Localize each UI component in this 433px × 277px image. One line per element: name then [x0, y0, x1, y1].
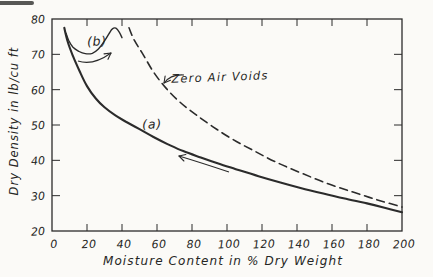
y-tick-label: 70 — [31, 48, 46, 62]
y-tick-label: 20 — [31, 225, 46, 239]
x-tick-label: 40 — [116, 238, 132, 252]
chart-plot-area: 0204060801001201401601802002030405060708… — [0, 0, 433, 277]
x-tick-label: 80 — [186, 238, 202, 252]
direction-arrow-b — [78, 53, 111, 62]
x-tick-label: 120 — [252, 237, 275, 251]
curve-b-label: (b) — [87, 33, 108, 49]
x-tick-label: 140 — [287, 237, 310, 251]
x-tick-label: 180 — [357, 237, 380, 251]
y-tick-label: 50 — [31, 119, 46, 133]
y-axis-title: Dry Density in lb/cu ft — [7, 47, 21, 196]
x-tick-label: 160 — [322, 237, 345, 251]
compaction-curves-figure: 0204060801001201401601802002030405060708… — [0, 0, 433, 277]
x-tick-label: 100 — [217, 237, 240, 251]
series-zero-air-voids — [129, 28, 402, 207]
y-tick-label: 80 — [31, 13, 46, 27]
x-axis-title: Moisture Content in % Dry Weight — [103, 254, 343, 268]
direction-arrow-a-head — [179, 155, 186, 156]
x-tick-label: 0 — [50, 238, 58, 251]
y-tick-label: 40 — [31, 154, 46, 168]
y-tick-label: 60 — [31, 83, 46, 97]
x-tick-label: 60 — [151, 238, 167, 252]
x-tick-label: 20 — [81, 238, 97, 252]
curve-a-label: (a) — [142, 116, 162, 132]
x-tick-label: 200 — [392, 237, 415, 251]
y-tick-label: 30 — [31, 189, 46, 203]
series-curve-a-drying — [64, 28, 402, 213]
